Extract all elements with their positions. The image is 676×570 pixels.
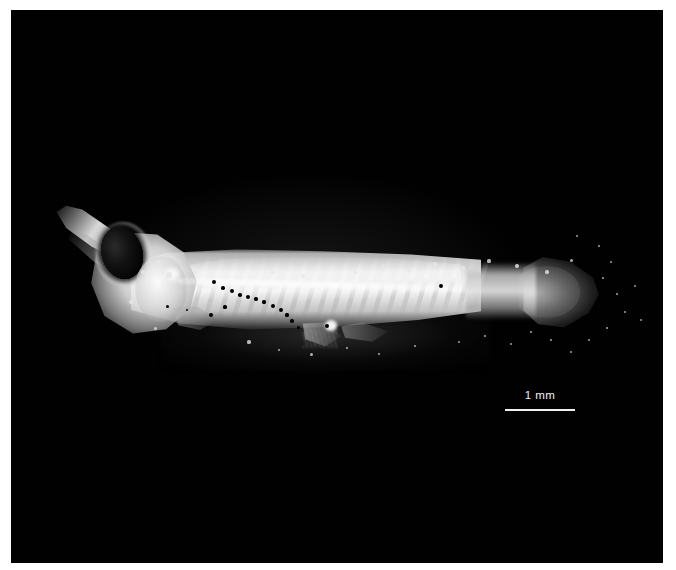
debris-speck	[606, 327, 609, 330]
debris-speck	[247, 340, 250, 343]
scale-bar-line	[505, 409, 575, 411]
debris-speck	[461, 266, 465, 270]
debris-speck	[271, 270, 275, 274]
scale-bar-label: 1 mm	[500, 388, 580, 402]
debris-speck	[570, 259, 573, 262]
melanophore	[290, 319, 294, 323]
debris-speck	[310, 353, 313, 356]
debris-speck	[487, 259, 490, 262]
melanophore	[246, 295, 250, 299]
melanophore	[297, 326, 300, 329]
debris-speck	[640, 319, 642, 321]
melanophore	[581, 316, 585, 320]
debris-speck	[129, 300, 133, 304]
specimen-photograph-plate: 1 mm	[11, 10, 663, 563]
melanophore	[221, 286, 225, 290]
debris-speck	[246, 265, 249, 268]
debris-speck	[550, 339, 553, 342]
melanophore	[285, 313, 288, 316]
debris-speck	[624, 311, 626, 313]
debris-speck	[382, 264, 385, 267]
debris-speck	[570, 351, 572, 353]
debris-speck	[616, 293, 619, 296]
larval-fish-specimen	[11, 10, 663, 563]
melanophore	[262, 300, 265, 303]
melanophore	[166, 305, 169, 308]
melanophore	[212, 280, 216, 284]
debris-speck	[301, 274, 305, 278]
debris-speck	[634, 285, 636, 287]
debris-speck	[166, 272, 171, 277]
debris-speck	[530, 331, 533, 334]
melanophore	[223, 305, 226, 308]
debris-speck	[510, 343, 512, 345]
debris-speck	[576, 235, 578, 237]
debris-speck	[221, 266, 224, 269]
debris-speck	[407, 268, 410, 271]
debris-speck	[545, 270, 548, 273]
debris-speck	[598, 245, 601, 248]
debris-speck	[193, 270, 196, 273]
debris-speck	[157, 260, 160, 263]
melanophore	[279, 308, 283, 312]
melanophore	[238, 293, 242, 297]
figure-page: 1 mm	[0, 0, 676, 570]
debris-speck	[602, 277, 605, 280]
debris-speck	[515, 264, 519, 268]
debris-speck	[353, 270, 357, 274]
debris-speck	[588, 339, 591, 342]
debris-speck	[326, 267, 329, 270]
debris-speck	[610, 261, 612, 263]
scale-bar: 1 mm	[500, 388, 580, 411]
debris-speck	[178, 279, 182, 283]
debris-speck	[154, 327, 157, 330]
melanophore	[254, 297, 257, 300]
debris-speck	[433, 262, 436, 265]
